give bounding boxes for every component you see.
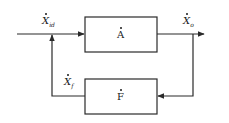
dot-accent bbox=[120, 27, 122, 29]
dot-accent bbox=[186, 13, 188, 15]
dot-accent bbox=[120, 89, 122, 91]
block-a-label: A bbox=[117, 30, 124, 40]
block-f-text: F bbox=[117, 91, 124, 102]
input-signal-label: Xid bbox=[42, 16, 55, 28]
feedback-signal-label: Xf bbox=[64, 77, 73, 89]
block-a-text: A bbox=[117, 29, 124, 40]
feedback-subscript: f bbox=[71, 82, 73, 89]
output-tap-line bbox=[158, 34, 193, 96]
dot-accent bbox=[67, 74, 69, 76]
output-subscript: o bbox=[190, 21, 194, 28]
input-subscript: id bbox=[49, 21, 55, 28]
output-signal-label: Xo bbox=[183, 16, 194, 28]
feedback-diagram bbox=[0, 0, 229, 123]
dot-accent bbox=[45, 13, 47, 15]
block-f-label: F bbox=[117, 92, 124, 102]
